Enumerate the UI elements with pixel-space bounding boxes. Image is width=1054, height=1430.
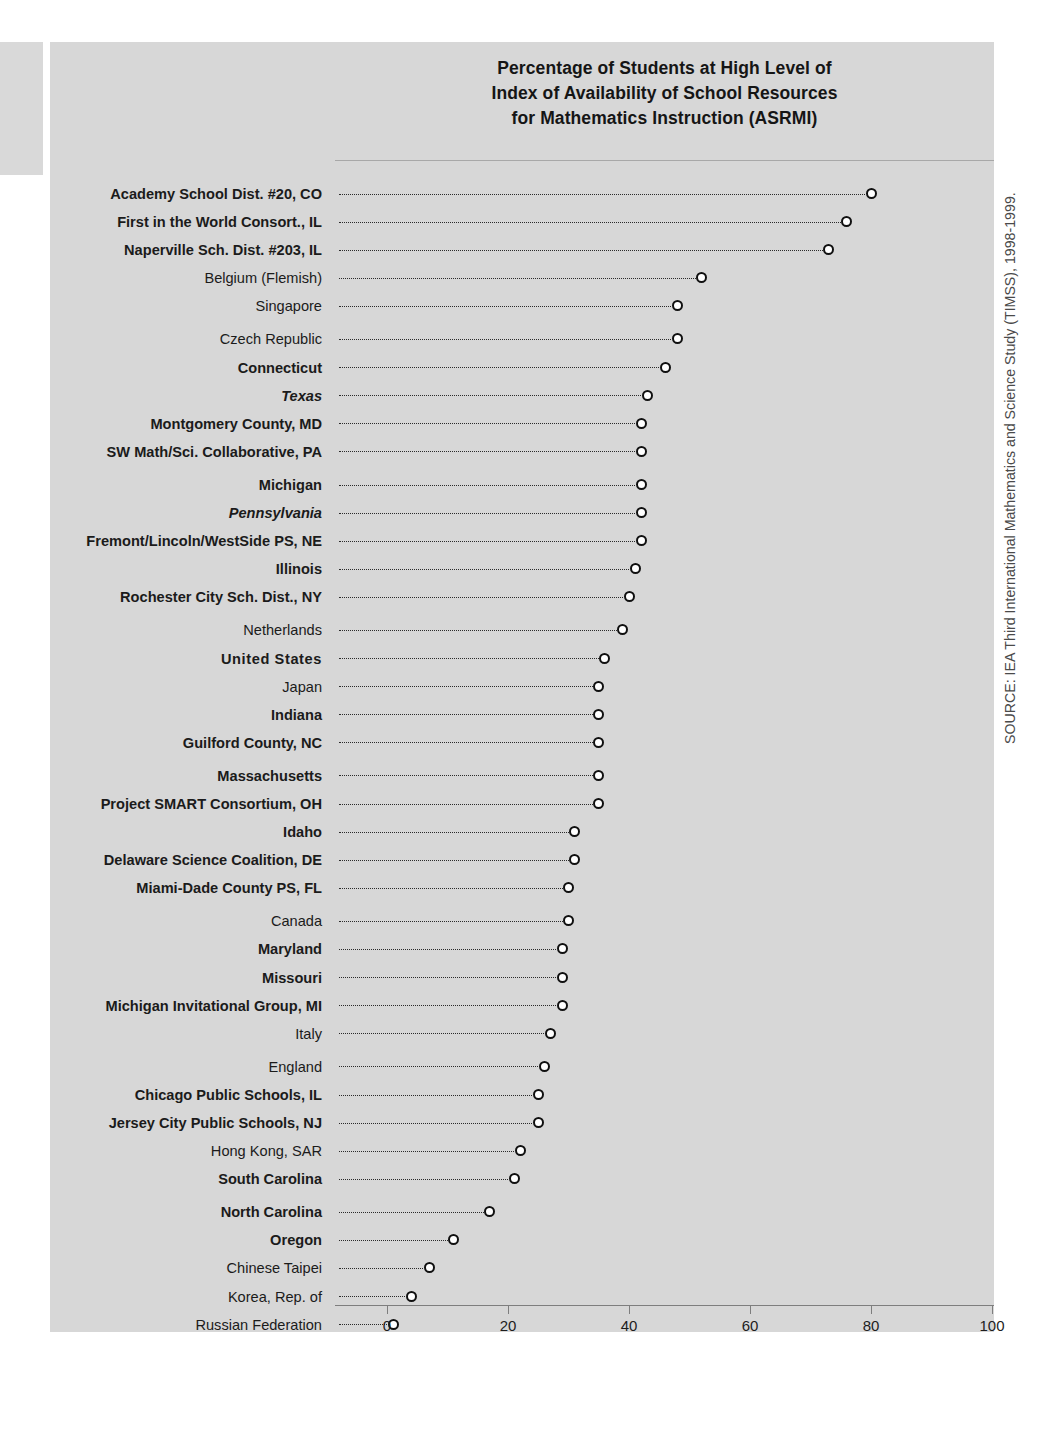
leader-line	[339, 541, 635, 542]
x-axis-tick-label: 60	[742, 1317, 759, 1334]
category-label: Pennsylvania	[229, 499, 322, 527]
data-point-marker	[563, 915, 574, 926]
category-label: Miami-Dade County PS, FL	[136, 874, 322, 902]
value-track	[335, 1198, 994, 1226]
data-point-marker	[593, 737, 604, 748]
leader-line	[339, 1066, 538, 1067]
leader-line	[339, 1005, 556, 1006]
data-point-marker	[533, 1089, 544, 1100]
value-track	[335, 555, 994, 583]
value-track	[335, 410, 994, 438]
chart-row: Massachusetts	[50, 762, 994, 790]
header-rule	[335, 160, 994, 161]
value-track	[335, 1053, 994, 1081]
value-track	[335, 208, 994, 236]
category-label: Maryland	[258, 935, 322, 963]
data-point-marker	[696, 272, 707, 283]
category-label: Texas	[281, 382, 322, 410]
x-axis-tick-label: 40	[621, 1317, 638, 1334]
chart-panel: Percentage of Students at High Level of …	[50, 42, 994, 1332]
category-label: North Carolina	[221, 1198, 322, 1226]
category-label: Chicago Public Schools, IL	[135, 1081, 322, 1109]
category-label: Japan	[282, 673, 322, 701]
leader-line	[339, 949, 556, 950]
value-track	[335, 354, 994, 382]
category-label: Czech Republic	[220, 325, 322, 353]
chart-page: Percentage of Students at High Level of …	[0, 0, 1054, 1430]
category-label: South Carolina	[218, 1165, 322, 1193]
chart-row: Canada	[50, 907, 994, 935]
category-label: Canada	[271, 907, 322, 935]
category-label: Idaho	[283, 818, 322, 846]
corner-block	[0, 42, 43, 175]
data-point-marker	[509, 1173, 520, 1184]
leader-line	[339, 860, 569, 861]
chart-row: Chinese Taipei	[50, 1254, 994, 1282]
row-group: NetherlandsUnited StatesJapanIndianaGuil…	[50, 616, 994, 756]
value-track	[335, 935, 994, 963]
chart-title-line-3: for Mathematics Instruction (ASRMI)	[335, 106, 994, 131]
leader-line	[339, 395, 641, 396]
x-axis-tick	[387, 1305, 388, 1314]
leader-line	[339, 630, 617, 631]
leader-line	[339, 1033, 544, 1034]
x-axis-tick	[629, 1305, 630, 1314]
leader-line	[339, 742, 593, 743]
data-point-marker	[636, 535, 647, 546]
category-label: Hong Kong, SAR	[211, 1137, 322, 1165]
data-point-marker	[424, 1262, 435, 1273]
row-group: Czech RepublicConnecticutTexasMontgomery…	[50, 325, 994, 465]
leader-line	[339, 775, 593, 776]
chart-row: Rochester City Sch. Dist., NY	[50, 583, 994, 611]
category-label: Naperville Sch. Dist. #203, IL	[124, 236, 322, 264]
data-point-marker	[533, 1117, 544, 1128]
category-label: Jersey City Public Schools, NJ	[109, 1109, 322, 1137]
chart-row: SW Math/Sci. Collaborative, PA	[50, 438, 994, 466]
data-point-marker	[484, 1206, 495, 1217]
row-group: MassachusettsProject SMART Consortium, O…	[50, 762, 994, 902]
chart-title: Percentage of Students at High Level of …	[335, 56, 994, 131]
value-track	[335, 729, 994, 757]
chart-row: Jersey City Public Schools, NJ	[50, 1109, 994, 1137]
chart-row: Illinois	[50, 555, 994, 583]
data-point-marker	[636, 418, 647, 429]
leader-line	[339, 714, 593, 715]
category-label: Guilford County, NC	[183, 729, 322, 757]
category-label: Montgomery County, MD	[150, 410, 322, 438]
category-label: Chinese Taipei	[227, 1254, 322, 1282]
chart-row: North Carolina	[50, 1198, 994, 1226]
leader-line	[339, 658, 599, 659]
value-track	[335, 1137, 994, 1165]
row-group: North CarolinaOregonChinese TaipeiKorea,…	[50, 1198, 994, 1338]
value-track	[335, 471, 994, 499]
x-axis-tick-label: 100	[979, 1317, 1004, 1334]
chart-rows: Academy School Dist. #20, COFirst in the…	[50, 180, 994, 1305]
leader-line	[339, 569, 629, 570]
value-track	[335, 236, 994, 264]
value-track	[335, 527, 994, 555]
data-point-marker	[448, 1234, 459, 1245]
row-group: MichiganPennsylvaniaFremont/Lincoln/West…	[50, 471, 994, 611]
chart-row: Project SMART Consortium, OH	[50, 790, 994, 818]
leader-line	[339, 686, 593, 687]
x-axis-line	[335, 1305, 994, 1306]
data-point-marker	[636, 507, 647, 518]
leader-line	[339, 597, 623, 598]
chart-row: Michigan	[50, 471, 994, 499]
chart-row: Fremont/Lincoln/WestSide PS, NE	[50, 527, 994, 555]
value-track	[335, 673, 994, 701]
leader-line	[339, 1240, 448, 1241]
leader-line	[339, 1324, 387, 1325]
source-note: SOURCE: IEA Third International Mathemat…	[1002, 192, 1018, 744]
value-track	[335, 701, 994, 729]
data-point-marker	[557, 943, 568, 954]
value-track	[335, 616, 994, 644]
category-label: United States	[221, 645, 322, 673]
category-label: Delaware Science Coalition, DE	[104, 846, 322, 874]
value-track	[335, 645, 994, 673]
leader-line	[339, 888, 563, 889]
data-point-marker	[672, 333, 683, 344]
chart-row: Delaware Science Coalition, DE	[50, 846, 994, 874]
category-label: SW Math/Sci. Collaborative, PA	[107, 438, 322, 466]
category-label: Netherlands	[243, 616, 322, 644]
